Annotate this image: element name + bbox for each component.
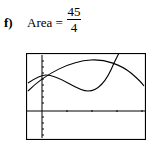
problem-label: f) (4, 15, 13, 31)
fraction-denominator: 4 (67, 21, 81, 34)
area-fraction: 45 4 (67, 5, 81, 34)
fraction-numerator: 45 (67, 5, 81, 18)
equation-lhs: Area = (27, 15, 63, 31)
calculator-graph (26, 53, 146, 140)
